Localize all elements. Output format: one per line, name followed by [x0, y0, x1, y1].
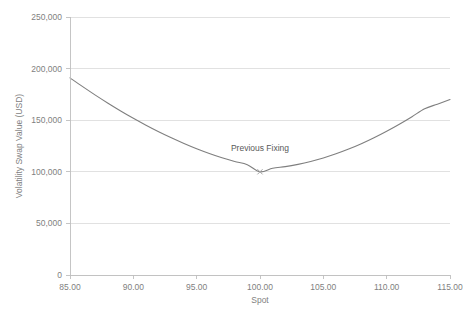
x-axis-tick-label: 85.00 [59, 282, 81, 292]
y-axis-title: Volatility Swap Value (USD) [14, 94, 24, 198]
x-axis-tick-label: 90.00 [123, 282, 145, 292]
x-axis-tick-label: 115.00 [437, 282, 463, 292]
x-axis-tick-label: 100.00 [247, 282, 273, 292]
x-axis-tick-label: 110.00 [374, 282, 400, 292]
y-axis-tick-label: 0 [57, 270, 62, 280]
chart-canvas: 85.0090.0095.00100.00105.00110.00115.00 … [0, 0, 475, 320]
y-axis-tick-label: 100,000 [31, 167, 62, 177]
x-axis-tick-label: 95.00 [186, 282, 208, 292]
y-axis-tick-label: 200,000 [31, 64, 62, 74]
chart-container: 85.0090.0095.00100.00105.00110.00115.00 … [0, 0, 475, 320]
y-axis-tick-label: 150,000 [31, 115, 62, 125]
y-axis-tick-label: 50,000 [36, 218, 62, 228]
x-axis-title: Spot [251, 295, 269, 305]
y-axis-tick-label: 250,000 [31, 12, 62, 22]
chart-background [0, 0, 475, 320]
annotation-label-previous-fixing: Previous Fixing [231, 143, 289, 153]
x-axis-tick-label: 105.00 [310, 282, 336, 292]
